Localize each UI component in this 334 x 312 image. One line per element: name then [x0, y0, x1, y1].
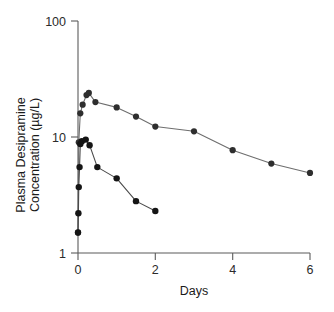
data-point [75, 210, 81, 216]
x-tick-label-6: 6 [307, 263, 314, 277]
data-point [94, 164, 100, 170]
series-line-0 [78, 93, 310, 233]
data-point [152, 208, 158, 214]
data-point [113, 175, 119, 181]
data-point [230, 147, 236, 153]
data-point [133, 198, 139, 204]
data-point [133, 113, 139, 119]
y-tick-label-10: 10 [52, 131, 66, 145]
y-tick-label-100: 100 [45, 15, 66, 29]
chart-figure: 100 10 1 0 2 4 6 Days Plasma Desipramine… [0, 0, 334, 312]
data-point [191, 128, 197, 134]
y-axis-ticks [71, 21, 78, 253]
data-point [80, 102, 86, 108]
y-tick-label-1: 1 [59, 247, 66, 261]
x-axis-title: Days [180, 284, 208, 298]
series-line-1 [78, 140, 155, 233]
data-point [76, 164, 82, 170]
x-tick-label-2: 2 [152, 263, 159, 277]
data-series-layer [75, 90, 313, 236]
data-point [76, 184, 82, 190]
data-point [86, 90, 92, 96]
data-point [83, 136, 89, 142]
data-point [75, 229, 81, 235]
data-point [86, 142, 92, 148]
x-axis-ticks [78, 253, 310, 260]
data-point [92, 99, 98, 105]
data-point [114, 104, 120, 110]
data-point [152, 123, 158, 129]
y-axis-title-line1: Plasma Desipramine [14, 97, 28, 212]
y-axis-title-line2: Concentration (µg/L) [28, 98, 42, 212]
data-point [77, 110, 83, 116]
x-tick-label-4: 4 [229, 263, 236, 277]
x-tick-label-0: 0 [75, 263, 82, 277]
data-point [307, 170, 313, 176]
series-1 [75, 136, 159, 235]
plot-canvas: 100 10 1 0 2 4 6 Days Plasma Desipramine… [0, 0, 334, 312]
series-0 [75, 90, 313, 236]
data-point [268, 160, 274, 166]
